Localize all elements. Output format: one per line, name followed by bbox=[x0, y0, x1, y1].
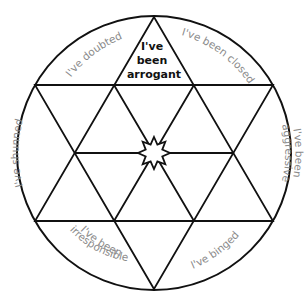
hexagram-diagram: I've been arrogant I've doubted I've bee… bbox=[0, 0, 307, 307]
top-segment-label: I've been arrogant bbox=[127, 40, 181, 81]
label-left: I've shunned bbox=[8, 117, 24, 188]
label-bottom-left-line2: irresponsible bbox=[68, 223, 130, 263]
downward-triangle bbox=[35, 85, 273, 289]
label-right-line2: aggressive bbox=[280, 123, 295, 184]
center-star-icon bbox=[138, 137, 170, 169]
label-top-left: I've doubted bbox=[63, 29, 124, 78]
label-top-right: I've been closed bbox=[181, 25, 257, 85]
